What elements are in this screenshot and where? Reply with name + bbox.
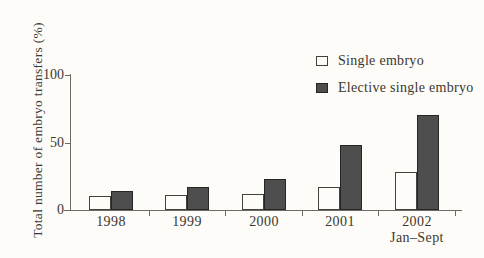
bar-single-embryo — [318, 187, 340, 210]
bar-elective-single-embryo — [264, 179, 286, 210]
x-tick-mark — [455, 211, 456, 216]
y-tick-label: 0 — [20, 202, 64, 218]
x-tick-mark — [378, 211, 379, 216]
x-category-sublabel: Jan–Sept — [379, 230, 455, 246]
x-category-label: 2002 — [379, 214, 455, 230]
x-tick-mark — [225, 211, 226, 216]
y-tick-mark — [65, 75, 70, 76]
open-square-swatch — [316, 56, 328, 66]
bar-elective-single-embryo — [417, 115, 439, 210]
bar-chart-figure: Total number of embryo transfers (%) 050… — [0, 0, 484, 258]
y-tick-label: 100 — [20, 67, 64, 83]
legend-item: Elective single embryo — [316, 80, 474, 96]
x-category-label: 2001 — [302, 214, 378, 230]
bar-single-embryo — [89, 196, 111, 210]
x-tick-mark — [302, 211, 303, 216]
bar-single-embryo — [165, 195, 187, 210]
x-tick-mark — [149, 211, 150, 216]
filled-square-swatch — [316, 83, 328, 93]
x-axis-line — [64, 210, 462, 211]
x-category-label: 2000 — [226, 214, 302, 230]
bar-elective-single-embryo — [187, 187, 209, 210]
bar-single-embryo — [395, 172, 417, 210]
y-tick-label: 50 — [20, 135, 64, 151]
y-axis-line — [70, 74, 71, 211]
legend-label: Single embryo — [338, 53, 424, 69]
legend-item: Single embryo — [316, 53, 474, 69]
x-category-label: 1998 — [73, 214, 149, 230]
bar-single-embryo — [242, 194, 264, 210]
bar-elective-single-embryo — [111, 191, 133, 210]
legend-label: Elective single embryo — [338, 80, 474, 96]
x-category-label: 1999 — [149, 214, 225, 230]
y-tick-mark — [65, 143, 70, 144]
legend: Single embryoElective single embryo — [316, 53, 474, 96]
bar-elective-single-embryo — [340, 145, 362, 210]
